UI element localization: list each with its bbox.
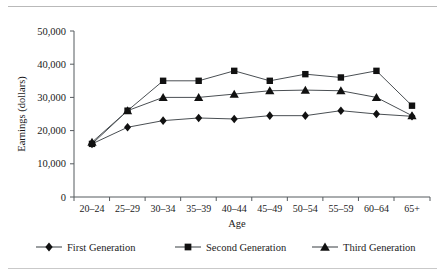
x-axis-tick-label: 65+	[404, 203, 420, 214]
data-point-square	[160, 78, 166, 84]
data-point-diamond	[337, 106, 344, 115]
series-line	[92, 90, 412, 142]
y-axis-tick-label: 40,000	[37, 59, 66, 70]
data-point-square	[409, 103, 415, 109]
data-point-square	[195, 78, 201, 84]
y-axis-tick-label: 0	[61, 192, 66, 203]
data-point-diamond	[373, 110, 380, 119]
legend-label: Second Generation	[206, 242, 287, 253]
data-point-diamond	[231, 115, 238, 124]
series-line	[92, 71, 412, 144]
chart-plot-area: 010,00020,00030,00040,00050,000 20–2425–…	[0, 0, 445, 277]
legend-label: Third Generation	[343, 242, 416, 253]
legend-item-triangle[interactable]: Third Generation	[312, 242, 416, 253]
data-point-square	[267, 78, 273, 84]
y-axis-tick-label: 30,000	[37, 92, 66, 103]
y-axis-tick-label: 50,000	[37, 26, 66, 37]
chart-series	[87, 68, 416, 149]
x-axis-tick-label: 35–39	[186, 203, 211, 214]
data-point-square	[373, 68, 379, 74]
x-axis-tick-label: 55–59	[328, 203, 353, 214]
y-axis-tick-labels: 010,00020,00030,00040,00050,000	[37, 26, 66, 203]
data-point-square	[338, 74, 344, 80]
series-diamond	[88, 106, 415, 148]
series-line	[92, 111, 412, 144]
x-axis-tick-label: 25–29	[115, 203, 140, 214]
figure-container: 010,00020,00030,00040,00050,000 20–2425–…	[0, 0, 445, 277]
x-axis-tick-label: 30–34	[151, 203, 176, 214]
legend-label: First Generation	[67, 242, 136, 253]
x-axis-tick-label: 45–49	[257, 203, 282, 214]
x-axis-tick-label: 50–54	[293, 203, 318, 214]
x-axis-tick-labels: 20–2425–2930–3435–3940–4445–4950–5455–59…	[80, 203, 421, 214]
y-axis-title: Earnings (dollars)	[16, 76, 28, 152]
data-point-square	[231, 68, 237, 74]
x-axis-title: Age	[228, 218, 246, 229]
series-triangle	[87, 86, 416, 146]
data-point-square	[302, 71, 308, 77]
data-point-diamond	[124, 123, 131, 132]
data-point-diamond	[160, 116, 167, 125]
chart-legend: First GenerationSecond GenerationThird G…	[36, 242, 416, 253]
data-point-triangle	[407, 111, 416, 119]
data-point-diamond	[45, 242, 52, 251]
x-axis-tick-label: 40–44	[222, 203, 247, 214]
y-axis-tick-label: 10,000	[37, 158, 66, 169]
data-point-diamond	[195, 114, 202, 123]
x-axis-tick-label: 60–64	[364, 203, 389, 214]
data-point-square	[185, 244, 192, 251]
data-point-diamond	[302, 111, 309, 120]
legend-item-square[interactable]: Second Generation	[175, 242, 287, 253]
data-point-diamond	[266, 111, 273, 120]
y-axis-tick-label: 20,000	[37, 125, 66, 136]
line-chart: 010,00020,00030,00040,00050,000 20–2425–…	[0, 0, 445, 277]
legend-item-diamond[interactable]: First Generation	[36, 242, 136, 253]
x-axis-tick-label: 20–24	[80, 203, 105, 214]
